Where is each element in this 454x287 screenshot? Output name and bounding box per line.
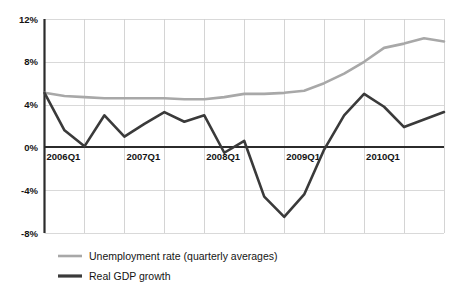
legend-label: Unemployment rate (quarterly averages) [89,250,278,262]
chart-background [0,0,454,287]
x-axis-tick-label: 2010Q1 [366,151,401,162]
y-axis-tick-label: -8% [21,228,38,239]
x-axis-tick-label: 2007Q1 [126,151,161,162]
y-axis-tick-label: 0% [24,142,38,153]
y-axis-tick-label: 8% [24,56,38,67]
line-chart: 12%8%4%0%-4%-8% 2006Q12007Q12008Q12009Q1… [0,0,454,287]
y-axis-tick-label: 4% [24,99,38,110]
y-axis-tick-label: 12% [19,14,39,25]
y-axis-tick-label: -4% [21,185,38,196]
chart-container: 12%8%4%0%-4%-8% 2006Q12007Q12008Q12009Q1… [0,0,454,287]
legend-label: Real GDP growth [89,270,171,282]
x-axis-tick-label: 2009Q1 [286,151,321,162]
x-axis-tick-label: 2006Q1 [47,151,82,162]
